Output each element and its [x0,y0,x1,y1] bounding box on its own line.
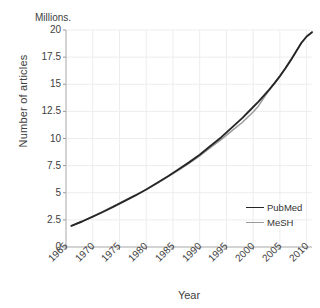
chart-figure: Millions. Number of articles Year 02.557… [0,0,320,308]
x-tick-label: 1970 [73,240,97,264]
x-tick-label: 2010 [287,240,311,264]
legend-swatch-pubmed [246,207,264,208]
x-tick-label: 1965 [46,240,70,264]
x-tick-label: 1975 [99,240,123,264]
x-tick-label: 1985 [153,240,177,264]
legend-item-mesh: MeSH [246,215,302,230]
legend-swatch-mesh [246,222,264,223]
x-tick-label: 2000 [233,240,257,264]
x-tick-label: 1980 [126,240,150,264]
legend-item-pubmed: PubMed [246,200,302,215]
x-tick-label: 1995 [206,240,230,264]
chart-legend: PubMed MeSH [246,200,302,230]
x-axis-tick-labels: 1965197019751980198519901995200020052010 [0,0,320,308]
legend-label-mesh: MeSH [267,217,293,228]
x-tick-label: 1990 [180,240,204,264]
legend-label-pubmed: PubMed [267,202,302,213]
x-tick-label: 2005 [260,240,284,264]
